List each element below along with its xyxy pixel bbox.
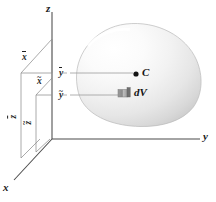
x-tilde-label: x~ [37,75,42,87]
y-tilde-label: y~ [59,89,63,101]
volume-body [76,23,201,126]
z-axis-label: z [46,3,50,14]
z-tilde-label: z~ [22,121,34,125]
x-axis-label: x [3,182,9,193]
centroid-label: C [142,67,149,78]
dv-label: dV [134,87,147,98]
centroid-figure: z y x x x~ y y~ z z~ C dV [0,0,216,202]
x-bar-label: x [22,51,27,63]
x-axis [14,139,52,180]
centroid-dot [133,71,138,76]
y-axis-label: y [203,131,208,142]
dv-label-v: V [140,86,147,98]
y-bar-label: y [59,67,63,79]
figure-graphics [0,0,216,202]
z-bar-label: z [7,115,19,119]
